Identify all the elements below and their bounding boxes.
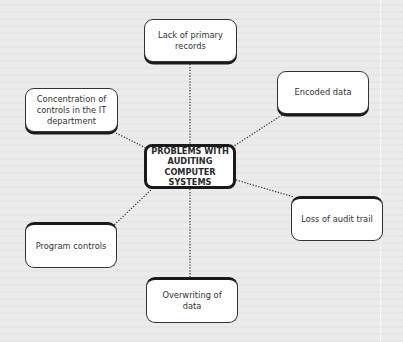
center-label-line: COMPUTER SYSTEMS (149, 167, 231, 188)
node-concentration-of-controls: Concentration of controls in the IT depa… (25, 88, 118, 132)
node-label: Encoded data (294, 87, 351, 98)
edge-center-program (113, 188, 153, 226)
node-label-line: records (158, 41, 223, 52)
edge-center-loss (236, 180, 294, 197)
node-label-line: controls in the IT (37, 105, 107, 116)
node-program-controls: Program controls (25, 222, 117, 268)
node-label: Program controls (36, 241, 107, 252)
node-label-line: department (37, 116, 107, 127)
center-label-line: PROBLEMS WITH (149, 146, 231, 157)
node-label: Loss of audit trail (301, 214, 373, 225)
node-encoded-data: Encoded data (277, 71, 369, 114)
node-label-line: Concentration of (37, 94, 107, 105)
node-overwriting-of-data: Overwriting of data (146, 277, 238, 323)
node-loss-of-audit-trail: Loss of audit trail (291, 196, 383, 241)
node-center-problems-with-auditing: PROBLEMS WITH AUDITING COMPUTER SYSTEMS (144, 144, 236, 189)
node-label: Overwriting of data (153, 290, 231, 312)
edge-center-concentration (116, 133, 146, 148)
node-label-line: Lack of primary (158, 30, 223, 41)
node-lack-of-primary-records: Lack of primary records (144, 19, 237, 62)
center-label-line: AUDITING (149, 156, 231, 167)
edge-center-encoded (234, 115, 282, 146)
